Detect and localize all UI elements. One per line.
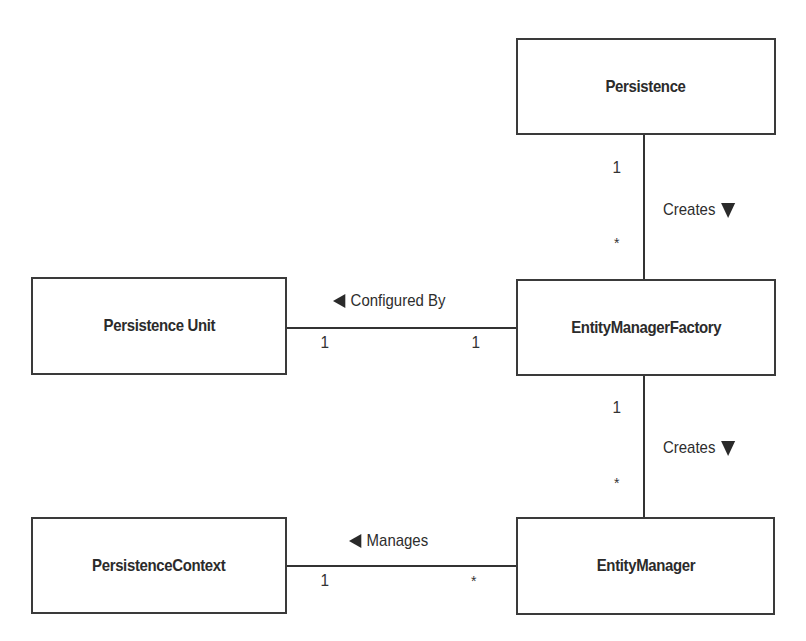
persistence-label: Persistence — [606, 77, 686, 97]
emf-em-source-multiplicity: 1 — [612, 398, 621, 418]
emf-em-target-multiplicity: * — [614, 475, 619, 491]
triangle-down-icon — [721, 203, 735, 218]
entity-manager-factory-label: EntityManagerFactory — [571, 318, 721, 338]
emf-side-multiplicity: 1 — [471, 333, 480, 353]
persistence-unit-label: Persistence Unit — [103, 316, 215, 336]
manages-text: Manages — [367, 531, 429, 551]
manages-association-label: Manages — [349, 531, 428, 551]
entity-manager-box: EntityManager — [516, 517, 775, 615]
entity-manager-label: EntityManager — [596, 556, 695, 576]
persistence-emf-association-label: Creates — [663, 200, 735, 220]
diagram-canvas: Persistence Persistence Unit EntityManag… — [0, 0, 806, 641]
persistence-box: Persistence — [516, 38, 776, 135]
entity-manager-factory-box: EntityManagerFactory — [516, 279, 776, 376]
triangle-left-icon — [349, 534, 361, 548]
persistence-context-box: PersistenceContext — [31, 517, 287, 614]
creates-text: Creates — [663, 200, 715, 220]
pc-em-connector — [287, 565, 516, 567]
triangle-down-icon — [721, 441, 735, 456]
persistence-emf-source-multiplicity: 1 — [612, 158, 621, 178]
emf-em-association-label: Creates — [663, 438, 735, 458]
pu-side-multiplicity: 1 — [320, 333, 329, 353]
persistence-emf-connector — [643, 135, 645, 279]
pc-side-multiplicity: 1 — [320, 571, 329, 591]
persistence-context-label: PersistenceContext — [92, 556, 225, 576]
triangle-left-icon — [333, 294, 345, 308]
creates-text: Creates — [663, 438, 715, 458]
configured-by-association-label: Configured By — [333, 291, 445, 311]
configured-by-text: Configured By — [351, 291, 446, 311]
persistence-unit-box: Persistence Unit — [31, 277, 287, 375]
persistence-emf-target-multiplicity: * — [614, 235, 619, 251]
pu-emf-connector — [287, 327, 516, 329]
emf-em-connector — [643, 376, 645, 517]
em-side-multiplicity: * — [471, 573, 476, 589]
